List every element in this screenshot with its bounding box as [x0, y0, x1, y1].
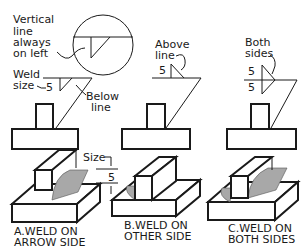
svg-text:on left: on left — [13, 47, 49, 60]
svg-text:line: line — [155, 49, 175, 62]
svg-text:sides: sides — [245, 47, 274, 60]
isometric-joint-a: A.WELD ON ARROW SIDE — [12, 150, 100, 249]
magnified-detail — [73, 15, 133, 75]
svg-text:5: 5 — [108, 171, 115, 184]
svg-text:OTHER SIDE: OTHER SIDE — [124, 230, 191, 243]
svg-text:BOTH SIDES: BOTH SIDES — [228, 233, 295, 246]
symbol-a: Weld size 5 Below line — [13, 68, 119, 128]
svg-text:5: 5 — [46, 81, 53, 94]
svg-text:size: size — [13, 79, 35, 92]
isometric-joint-c: C.WELD ON BOTH SIDES — [208, 157, 298, 246]
svg-text:5: 5 — [159, 64, 166, 77]
svg-text:5: 5 — [248, 65, 255, 78]
svg-text:ARROW SIDE: ARROW SIDE — [14, 236, 86, 249]
svg-text:5: 5 — [248, 81, 255, 94]
joint-b-section — [122, 104, 190, 149]
isometric-joint-b: B.WELD ON OTHER SIDE — [112, 157, 200, 243]
svg-text:Size: Size — [83, 151, 106, 164]
weld-symbol-diagram: Vertical line always on left Weld size 5… — [0, 0, 308, 250]
joint-c-section — [227, 104, 296, 149]
svg-text:line: line — [91, 101, 111, 114]
